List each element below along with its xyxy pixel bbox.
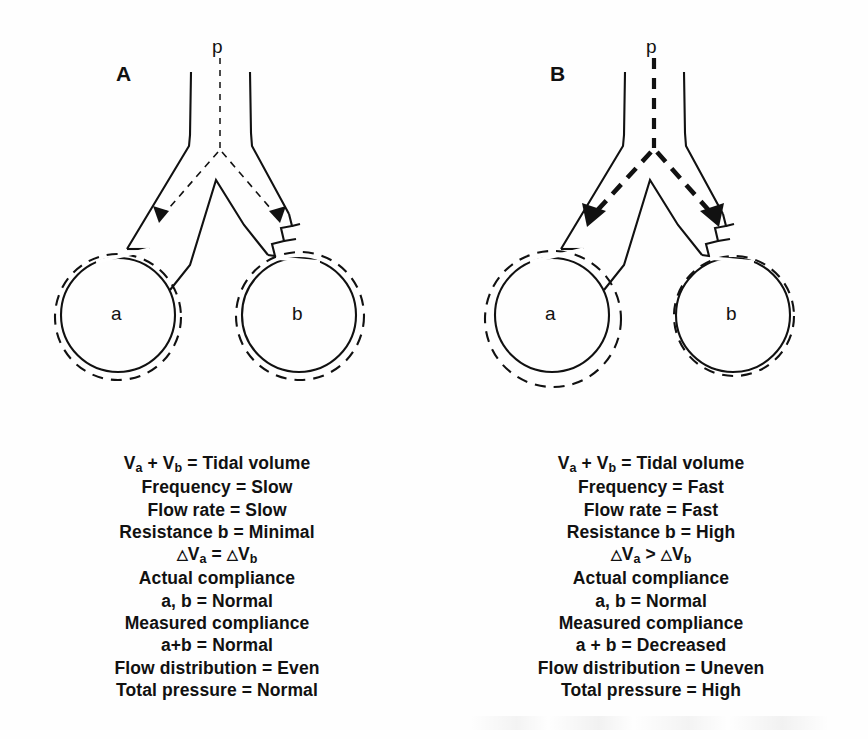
- spec-actual-compliance-value: a, b = Normal: [434, 590, 868, 612]
- spec-delta-volumes: △Va > △Vb: [434, 543, 868, 567]
- spec-actual-compliance-header: Actual compliance: [434, 567, 868, 589]
- trachea-left-wall-b: [561, 72, 625, 249]
- spec-measured-compliance-header: Measured compliance: [0, 612, 434, 634]
- balloon-label-b-right: b: [726, 303, 737, 325]
- spec-flow-rate: Flow rate = Slow: [0, 499, 434, 521]
- balloon-label-b-left: a: [545, 303, 556, 325]
- trachea-right-wall-b: [684, 72, 723, 214]
- right-bronchus-step-tick-a: [292, 224, 300, 226]
- carina-inner-walls-b: [604, 180, 702, 290]
- spec-total-pressure: Total pressure = Normal: [0, 679, 434, 701]
- spec-actual-compliance-value: a, b = Normal: [0, 590, 434, 612]
- spec-measured-compliance-value: a + b = Decreased: [434, 634, 868, 656]
- right-bronchus-step-tick2-b: [718, 239, 730, 241]
- lung-model-drawing-b: [434, 0, 868, 440]
- spec-flow-distribution: Flow distribution = Uneven: [434, 657, 868, 679]
- spec-list-b: Va + Vb = Tidal volume Frequency = Fast …: [434, 452, 868, 701]
- spec-resistance-b: Resistance b = Minimal: [0, 521, 434, 543]
- spec-list-a: Va + Vb = Tidal volume Frequency = Slow …: [0, 452, 434, 701]
- panel-b: B p: [434, 0, 868, 739]
- lung-model-drawing-a: [0, 0, 434, 440]
- balloon-a-neck-mask-a: [96, 249, 150, 262]
- flow-arrowhead-right-a: [269, 206, 286, 223]
- balloon-label-a-right: b: [292, 303, 303, 325]
- spec-total-pressure: Total pressure = High: [434, 679, 868, 701]
- spec-tidal-volume: Va + Vb = Tidal volume: [434, 452, 868, 476]
- balloon-label-a-left: a: [111, 303, 122, 325]
- spec-frequency: Frequency = Slow: [0, 476, 434, 498]
- spec-measured-compliance-header: Measured compliance: [434, 612, 868, 634]
- spec-tidal-volume: Va + Vb = Tidal volume: [0, 452, 434, 476]
- spec-delta-volumes: △Va = △Vb: [0, 543, 434, 567]
- right-bronchus-step-tick2-a: [284, 239, 296, 241]
- right-bronchus-step-tick-b: [726, 224, 734, 226]
- flow-arrowheads-a: [153, 206, 286, 223]
- spec-resistance-b: Resistance b = High: [434, 521, 868, 543]
- trachea-right-wall-a: [250, 72, 289, 214]
- spec-actual-compliance-header: Actual compliance: [0, 567, 434, 589]
- spec-measured-compliance-value: a+b = Normal: [0, 634, 434, 656]
- spec-flow-distribution: Flow distribution = Even: [0, 657, 434, 679]
- flow-arrowhead-left-a: [153, 206, 169, 223]
- spec-flow-rate: Flow rate = Fast: [434, 499, 868, 521]
- flow-arrow-left-shaft-a: [162, 152, 218, 216]
- panel-a: A p: [0, 0, 434, 739]
- spec-frequency: Frequency = Fast: [434, 476, 868, 498]
- flow-arrow-right-shaft-a: [222, 152, 277, 216]
